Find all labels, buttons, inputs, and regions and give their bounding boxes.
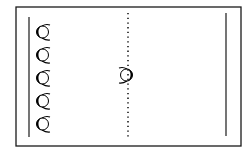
player-icon [37, 70, 51, 86]
court-diagram [0, 0, 252, 157]
player-icon [119, 67, 133, 83]
player-icon [37, 116, 51, 132]
player-icon [37, 24, 51, 40]
players-group [37, 24, 133, 132]
player-icon [37, 47, 51, 63]
player-icon [37, 93, 51, 109]
